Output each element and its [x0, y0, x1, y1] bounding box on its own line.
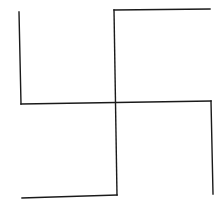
line-figure: [0, 0, 221, 202]
top-horizontal-arm: [114, 9, 210, 10]
